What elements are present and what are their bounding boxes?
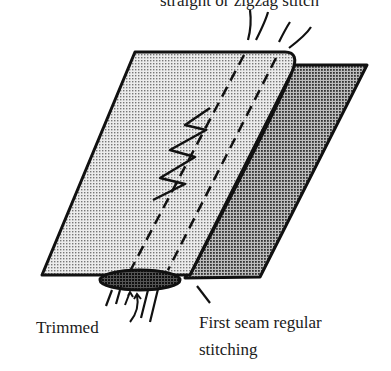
diagram: straight or zigzag stitch Trimmed First …: [0, 0, 391, 371]
label-first-seam-line2: stitching: [199, 340, 258, 359]
thread-ends-top: [248, 10, 311, 48]
label-trimmed: Trimmed: [36, 318, 99, 337]
first-seam-pointer: [197, 286, 210, 303]
trimmed-arrows: [125, 292, 141, 322]
label-straight-or-zigzag-stitch: straight or zigzag stitch: [160, 0, 319, 10]
label-first-seam-line1: First seam regular: [199, 313, 322, 332]
trimmed-seam-allowance: [100, 270, 180, 290]
seam-illustration: [0, 0, 391, 371]
